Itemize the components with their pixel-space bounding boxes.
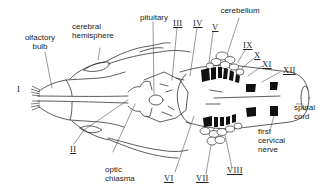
label-olfactory-bulb: olfactory bulb	[18, 33, 62, 51]
nerve-label-XII: XII	[283, 66, 296, 75]
nerve-label-VII: VII	[196, 174, 209, 183]
nerve-label-I: I	[17, 85, 20, 94]
label-optic-chiasma: optic chiasma	[105, 165, 149, 183]
nerve-label-IX: IX	[243, 41, 253, 50]
nerve-label-VIII: VIII	[227, 166, 243, 175]
nerve-label-II: II	[70, 145, 76, 154]
label-spinal-cord: spinal cord	[294, 103, 333, 121]
nerve-label-X: X	[254, 51, 260, 60]
nerve-label-IV: IV	[193, 19, 203, 28]
brain-diagram: olfactory bulb cerebral hemisphere pitui…	[0, 0, 333, 192]
label-cerebellum: cerebellum	[215, 6, 265, 15]
nerve-label-III: III	[173, 19, 182, 28]
brain-outline-drawing	[0, 0, 333, 192]
label-cerebral-hemisphere: cerebral hemisphere	[72, 22, 132, 40]
nerve-label-VI: VI	[164, 174, 174, 183]
nerve-label-XI: XI	[262, 60, 272, 69]
label-first-cervical-nerve: first cervical nerve	[258, 127, 308, 154]
nerve-label-V: V	[212, 23, 218, 32]
label-pituitary: pituitary	[130, 13, 178, 22]
